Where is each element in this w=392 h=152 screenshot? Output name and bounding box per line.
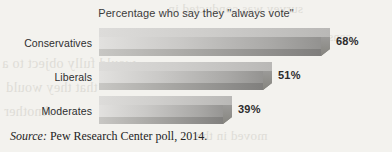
- chart-figure: survey was conducted in would fully obje…: [0, 0, 392, 152]
- bar-base-face: [99, 49, 330, 56]
- bar-body-face: [99, 37, 330, 49]
- chart-title: Percentage who say they "always vote": [0, 7, 392, 19]
- bar-base-face: [99, 117, 232, 124]
- bar-row-moderates: Moderates 39%: [0, 96, 392, 126]
- source-note: Source: Pew Research Center poll, 2014.: [10, 129, 207, 144]
- category-label-moderates: Moderates: [0, 105, 92, 117]
- bar-moderates: [99, 96, 232, 124]
- value-label-conservatives: 68%: [336, 35, 359, 47]
- category-label-conservatives: Conservatives: [0, 37, 92, 49]
- source-prefix: Source:: [10, 129, 47, 143]
- value-label-moderates: 39%: [238, 103, 261, 115]
- bar-top-face: [99, 62, 272, 71]
- bar-base-face: [99, 83, 272, 90]
- bar-plot-area: Conservatives 68% Liberals 51% Moderates: [0, 26, 392, 126]
- source-text: Pew Research Center poll, 2014.: [50, 129, 207, 143]
- bar-row-conservatives: Conservatives 68%: [0, 28, 392, 58]
- bar-top-face: [99, 28, 330, 37]
- bar-end-chamfer: [321, 37, 330, 56]
- bar-top-face: [99, 96, 232, 105]
- value-label-liberals: 51%: [278, 69, 301, 81]
- bar-body-face: [99, 105, 232, 117]
- bar-end-chamfer: [263, 71, 272, 90]
- bar-liberals: [99, 62, 272, 90]
- bar-conservatives: [99, 28, 330, 56]
- category-label-liberals: Liberals: [0, 71, 92, 83]
- bar-body-face: [99, 71, 272, 83]
- bar-end-chamfer: [223, 105, 232, 124]
- bar-row-liberals: Liberals 51%: [0, 62, 392, 92]
